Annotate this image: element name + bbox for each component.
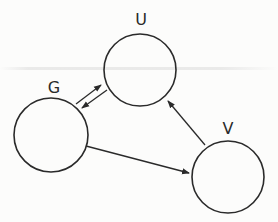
node-circle (14, 98, 88, 172)
node-v: V (192, 119, 264, 213)
node-u: U (104, 10, 176, 106)
node-circle (192, 141, 264, 213)
node-label: V (223, 119, 234, 138)
node-g: G (14, 78, 88, 172)
edge-u-to-g-arrow (82, 90, 107, 108)
node-circle (104, 34, 176, 106)
directed-graph: UGV (0, 0, 278, 222)
edges-group (76, 85, 205, 173)
edge-g-to-u-arrow (76, 85, 101, 104)
edge-v-to-u-arrow (168, 101, 205, 145)
node-label: U (135, 10, 147, 29)
edge-g-to-v-arrow (86, 146, 189, 173)
node-label: G (48, 78, 60, 97)
nodes-group: UGV (14, 10, 264, 213)
